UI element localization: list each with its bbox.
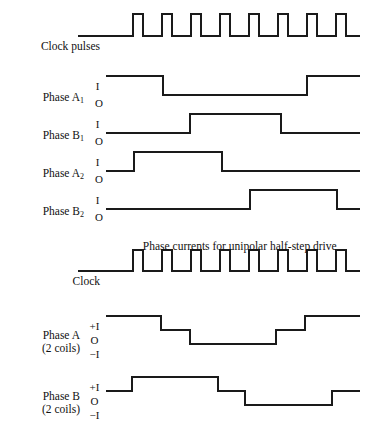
row-label-phase-a2-text: Phase A bbox=[43, 167, 80, 179]
row-sublabel-phase-a-coils: (2 coils) bbox=[4, 330, 80, 366]
level-marker-phase-b-coils-minus: −I bbox=[78, 398, 100, 430]
row-sublabel-phase-b-coils-text: (2 coils) bbox=[42, 403, 80, 415]
row-label-clock: Clock bbox=[4, 263, 100, 299]
row-label-phase-a1: Phase A1 bbox=[4, 79, 84, 116]
row-label-clock-text: Clock bbox=[73, 275, 100, 287]
figure-caption-text: Phase currents for unipolar half-step dr… bbox=[143, 240, 337, 252]
waveform-phase-a2 bbox=[106, 152, 360, 171]
level-text: −I bbox=[90, 348, 100, 360]
row-label-phase-a1-text: Phase A bbox=[43, 91, 80, 103]
row-label-clock-pulses-text: Clock pulses bbox=[41, 40, 100, 52]
level-text: O bbox=[95, 211, 103, 223]
waveform-phase-b1 bbox=[106, 114, 360, 133]
waveform-phase-b2 bbox=[106, 190, 360, 209]
row-label-phase-a2: Phase A2 bbox=[4, 155, 84, 192]
level-marker-phase-a-coils-minus: −I bbox=[78, 337, 100, 372]
level-marker-phase-b2-low: O bbox=[84, 200, 100, 235]
row-sublabel-phase-b-coils: (2 coils) bbox=[4, 391, 80, 427]
waveform-phase-a1 bbox=[106, 76, 360, 95]
row-label-phase-b1: Phase B1 bbox=[4, 117, 84, 154]
figure-caption: Phase currents for unipolar half-step dr… bbox=[106, 228, 362, 264]
row-label-clock-pulses: Clock pulses bbox=[4, 28, 100, 64]
timing-diagram-figure: Clock pulses Phase A1 Phase B1 Phase A2 … bbox=[0, 0, 382, 430]
waveform-phase-b-2-coils bbox=[106, 377, 360, 405]
waveform-phase-a-2-coils bbox=[106, 316, 360, 344]
level-text: −I bbox=[90, 409, 100, 421]
row-label-phase-b2-text: Phase B bbox=[43, 205, 80, 217]
row-label-phase-b1-text: Phase B bbox=[43, 129, 80, 141]
row-label-phase-b2: Phase B2 bbox=[4, 193, 84, 230]
row-sublabel-phase-a-coils-text: (2 coils) bbox=[42, 342, 80, 354]
waveform-clock-pulses bbox=[106, 14, 360, 36]
